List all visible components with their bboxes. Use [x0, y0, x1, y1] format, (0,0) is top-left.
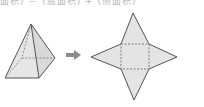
pyramid-net-icon	[91, 13, 177, 100]
right-arrow-icon	[66, 50, 81, 60]
square-pyramid-icon	[5, 24, 55, 78]
pyramid-net-diagram	[0, 0, 204, 107]
